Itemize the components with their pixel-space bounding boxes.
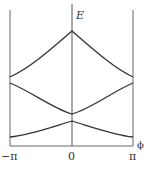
band-structure-diagram <box>0 0 148 169</box>
tick-label-neg-pi: −π <box>1 151 17 162</box>
tick-label-zero: 0 <box>68 151 75 162</box>
x-axis-label: ϕ <box>137 140 144 150</box>
tick-label-pi: π <box>129 151 136 162</box>
y-axis-label: E <box>76 10 84 21</box>
